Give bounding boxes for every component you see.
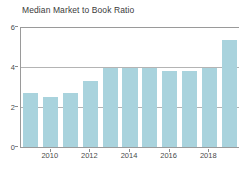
- chart-title: Median Market to Book Ratio: [22, 5, 134, 15]
- x-tick-label-2016: 2016: [160, 151, 177, 160]
- bar-2018: [202, 68, 217, 148]
- y-axis-tick-labels: 0246: [0, 27, 15, 147]
- bar-2013: [103, 68, 118, 148]
- x-axis-line: [20, 147, 239, 148]
- y-tick-mark-4: [15, 66, 18, 67]
- y-tick-mark-6: [15, 26, 18, 27]
- y-tick-label-2: 2: [11, 103, 15, 112]
- chart-figure: Median Market to Book Ratio 0246 2010201…: [0, 0, 243, 170]
- x-tick-label-2010: 2010: [41, 151, 58, 160]
- x-tick-label-2014: 2014: [121, 151, 138, 160]
- bar-2015: [142, 68, 157, 148]
- plot-inner: [21, 28, 239, 148]
- plot-area: [20, 27, 239, 148]
- bar-2016: [162, 71, 177, 148]
- bars-series: [21, 28, 239, 148]
- x-axis-tick-labels: 20102012201420162018: [20, 149, 238, 165]
- y-tick-mark-0: [15, 146, 18, 147]
- y-tick-label-4: 4: [11, 63, 15, 72]
- x-tick-label-2012: 2012: [81, 151, 98, 160]
- bar-2009: [23, 93, 38, 148]
- bar-2017: [182, 71, 197, 148]
- x-tick-label-2018: 2018: [200, 151, 217, 160]
- y-tick-mark-2: [15, 106, 18, 107]
- y-tick-label-0: 0: [11, 143, 15, 152]
- bar-2010: [43, 97, 58, 148]
- bar-2011: [63, 93, 78, 148]
- bar-2014: [122, 68, 137, 148]
- bar-2019: [222, 40, 237, 148]
- bar-2012: [83, 81, 98, 148]
- y-tick-label-6: 6: [11, 23, 15, 32]
